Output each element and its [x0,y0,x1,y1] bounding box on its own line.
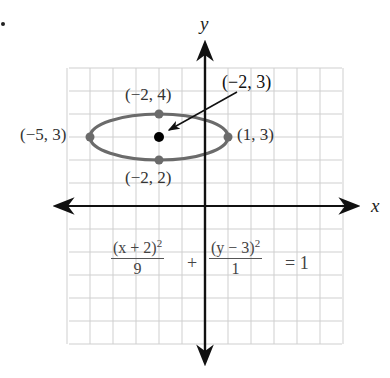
center-label: (−2, 3) [222,73,271,91]
equation-plus: + [187,254,197,272]
plotted-point [86,133,95,142]
center-pointer-arrow [169,92,237,130]
plotted-point [224,133,233,142]
point-label-left-vertex: (−5, 3) [20,126,66,143]
equation-term-1: (x + 2)2 9 [111,237,164,278]
equation-term-2: (y − 3)2 1 [209,237,262,278]
plotted-point [155,110,164,119]
center-point [154,132,164,142]
point-label-top-covertex: (−2, 4) [125,86,171,103]
y-axis-label: y [200,14,208,33]
plotted-point [155,156,164,165]
coordinate-grid [0,0,390,378]
point-label-right-vertex: (1, 3) [237,126,274,143]
equation-rhs: = 1 [285,254,309,272]
x-axis-label: x [371,196,379,215]
point-label-bottom-covertex: (−2, 2) [125,169,171,186]
